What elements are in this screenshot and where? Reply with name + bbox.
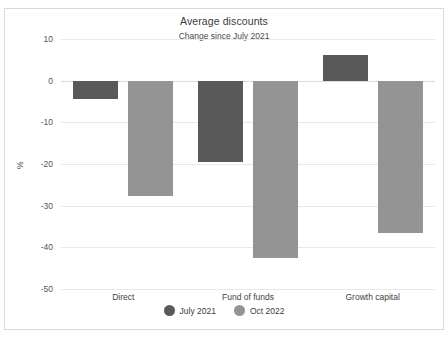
chart-legend: July 2021Oct 2022	[5, 305, 443, 316]
bar	[378, 81, 423, 233]
x-axis-category-label: Growth capital	[345, 292, 399, 302]
gridline	[61, 289, 435, 290]
bar	[128, 81, 173, 197]
y-axis-tick-label: 10	[13, 34, 53, 44]
legend-item[interactable]: July 2021	[164, 305, 216, 316]
y-axis-tick-label: -20	[13, 159, 53, 169]
x-axis-category-label: Fund of funds	[222, 292, 274, 302]
bar	[323, 55, 368, 81]
legend-swatch-circle-icon	[164, 305, 175, 316]
bar	[198, 81, 243, 162]
gridline	[61, 39, 435, 40]
chart-card: Average discounts Change since July 2021…	[4, 8, 444, 330]
x-axis-category-label: Direct	[112, 292, 134, 302]
chart-title: Average discounts	[5, 15, 443, 27]
legend-item-label: Oct 2022	[250, 306, 285, 316]
y-axis-tick-label: -40	[13, 242, 53, 252]
y-axis-tick-label: -50	[13, 284, 53, 294]
y-axis-tick-label: -30	[13, 201, 53, 211]
y-axis-tick-label: -10	[13, 117, 53, 127]
plot-area: 100-10-20-30-40-50 DirectFund of fundsGr…	[61, 39, 435, 289]
bar	[253, 81, 298, 258]
legend-item-label: July 2021	[180, 306, 216, 316]
bar	[73, 81, 118, 100]
gridline	[61, 247, 435, 248]
legend-item[interactable]: Oct 2022	[234, 305, 285, 316]
legend-swatch-circle-icon	[234, 305, 245, 316]
y-axis-tick-label: 0	[13, 76, 53, 86]
